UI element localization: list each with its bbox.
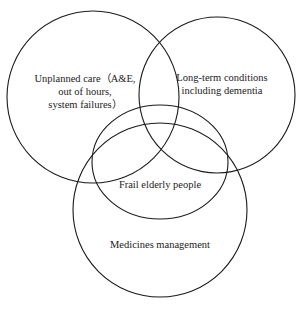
long-term-conditions-label: Long-term conditions including dementia bbox=[172, 71, 272, 97]
medicines-management-circle bbox=[73, 123, 247, 297]
frail-elderly-ellipse bbox=[92, 105, 228, 219]
unplanned-care-label: Unplanned care（A&E, out of hours, system… bbox=[22, 72, 148, 111]
venn-diagram bbox=[0, 0, 301, 310]
medicines-management-label: Medicines management bbox=[100, 238, 220, 251]
frail-elderly-label: Frail elderly people bbox=[110, 178, 210, 191]
